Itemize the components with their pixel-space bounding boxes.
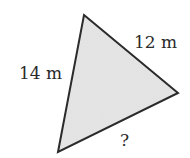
side-label-left: 14 m bbox=[19, 65, 62, 82]
side-label-right: 12 m bbox=[134, 34, 177, 51]
side-label-unknown: ? bbox=[120, 132, 129, 149]
